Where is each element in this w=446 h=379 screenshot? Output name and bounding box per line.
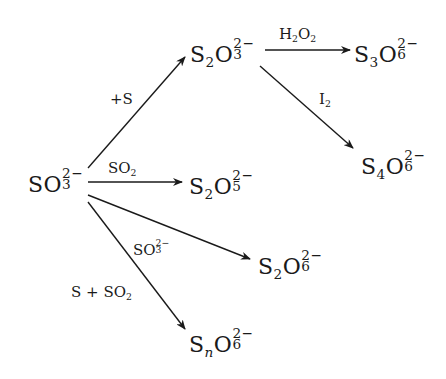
trithionate-o-count: 6 [397, 48, 406, 62]
so-letters: SO [133, 241, 156, 259]
arrow-sulfite-to-thiosulfate [88, 57, 185, 168]
o-count: 2 [310, 33, 316, 44]
trithionate-s-count: 3 [370, 54, 379, 70]
species-tetrathionate: S4O2−6 [361, 152, 433, 181]
thiosulfate-o-count: 3 [233, 48, 242, 62]
sulfite-base: SO [28, 172, 62, 197]
letter-o: O [379, 42, 398, 67]
o-letter: O [298, 25, 310, 43]
reagent-sulfite: SO2−3 [133, 240, 177, 258]
h-letter: H [279, 25, 292, 43]
polythionate-o-count: 6 [232, 338, 241, 352]
thiosulfate-indices: 2−3 [233, 40, 262, 62]
dithionate-o-count: 6 [301, 260, 310, 274]
letter-s: S [190, 42, 206, 67]
reagent-sulfur-plus-sulfur-dioxide: S + SO2 [71, 285, 132, 302]
disulfite-s-count: 2 [205, 186, 214, 202]
disulfite-indices: 2−5 [232, 172, 261, 194]
species-polythionate: SnO2−6 [189, 330, 261, 359]
species-thiosulfate: S2O2−3 [190, 40, 262, 69]
species-dithionate: S2O2−6 [258, 252, 330, 281]
letter-s: S [361, 154, 377, 179]
i-count: 2 [325, 98, 331, 109]
sulfite-indices: 2−3 [62, 170, 91, 192]
reagent-sulfite-count: 3 [156, 245, 162, 254]
thiosulfate-s-count: 2 [206, 54, 215, 70]
so-letters: SO [108, 159, 131, 177]
letter-o: O [214, 174, 233, 199]
species-disulfite: S2O2−5 [189, 172, 261, 201]
letter-s: S [189, 174, 205, 199]
reagent-plus-sulfur: +S [110, 92, 133, 107]
disulfite-o-count: 5 [232, 180, 241, 194]
letter-s: S [258, 254, 274, 279]
reagent-sulfur-dioxide: SO2 [108, 161, 137, 178]
tetrathionate-o-count: 6 [404, 160, 413, 174]
trithionate-indices: 2−6 [397, 40, 426, 62]
reagent-iodine: I2 [319, 92, 331, 109]
polythionate-indices: 2−6 [232, 330, 261, 352]
arrow-sulfite-to-polythionate [88, 202, 185, 329]
reagent-hydrogen-peroxide: H2O2 [279, 27, 316, 44]
letter-o: O [386, 154, 405, 179]
polythionate-s-count: n [205, 344, 214, 360]
dithionate-s-count: 2 [274, 266, 283, 282]
tetrathionate-indices: 2−6 [404, 152, 433, 174]
letter-s: S [189, 332, 205, 357]
letter-s: S [354, 42, 370, 67]
arrow-thiosulfate-to-tetrathionate [260, 66, 353, 148]
letter-o: O [283, 254, 302, 279]
so-count: 2 [131, 167, 137, 178]
s-plus-so-letters: S + SO [71, 283, 126, 301]
so-count: 2 [126, 291, 132, 302]
sulfite-subscript: 3 [62, 178, 71, 192]
letter-o: O [214, 332, 233, 357]
reagent-sulfite-indices: 2−3 [156, 240, 177, 255]
tetrathionate-s-count: 4 [377, 166, 386, 182]
species-sulfite: SO2−3 [28, 170, 91, 196]
dithionate-indices: 2−6 [301, 252, 330, 274]
letter-o: O [215, 42, 234, 67]
species-trithionate: S3O2−6 [354, 40, 426, 69]
